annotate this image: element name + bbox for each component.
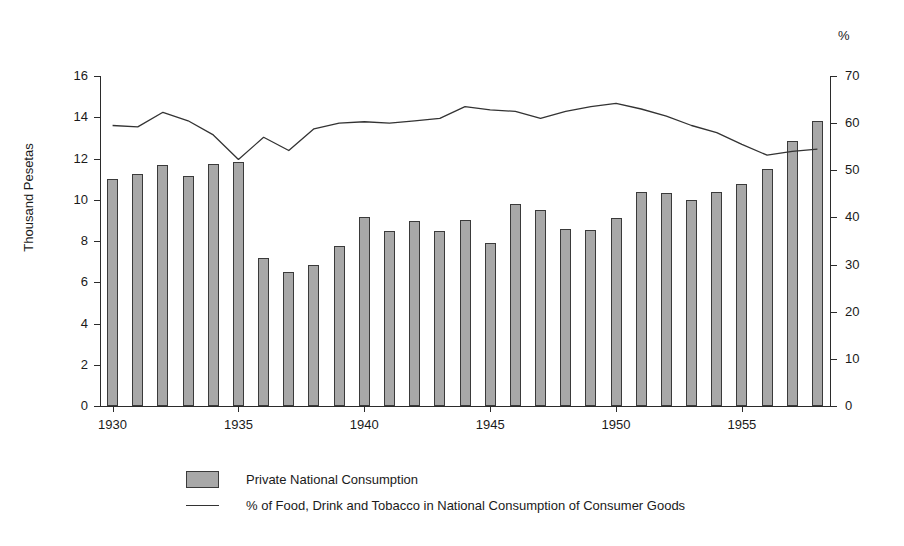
- legend-item-bars: Private National Consumption: [186, 466, 685, 492]
- plot-area: 0246810121416 010203040506070 1930193519…: [100, 76, 830, 406]
- left-axis-tick-label: 6: [28, 275, 88, 288]
- chart-figure: % Thousand Pesetas 0246810121416 0102030…: [0, 0, 904, 546]
- left-axis-tick-label: 2: [28, 358, 88, 371]
- legend: Private National Consumption % of Food, …: [186, 466, 685, 518]
- left-axis-tick-label: 4: [28, 317, 88, 330]
- x-axis-tick-label: 1930: [83, 417, 143, 432]
- right-axis-tick: [831, 265, 837, 266]
- left-axis-tick-label: 10: [28, 193, 88, 206]
- line-series-food-drink-tobacco-share: [100, 76, 830, 407]
- left-axis-tick-label: 14: [28, 110, 88, 123]
- legend-label-line: % of Food, Drink and Tobacco in National…: [246, 498, 685, 513]
- x-axis-tick: [113, 407, 114, 412]
- x-axis-tick-label: 1950: [586, 417, 646, 432]
- right-axis-tick-label: 60: [845, 116, 904, 129]
- left-axis-tick-label: 12: [28, 152, 88, 165]
- x-axis-tick: [742, 407, 743, 412]
- x-axis-tick: [238, 407, 239, 412]
- bar-swatch-icon: [186, 471, 219, 488]
- right-axis-tick-label: 20: [845, 305, 904, 318]
- legend-label-bars: Private National Consumption: [246, 472, 418, 487]
- legend-item-line: % of Food, Drink and Tobacco in National…: [186, 492, 685, 518]
- right-axis-tick-label: 40: [845, 210, 904, 223]
- x-axis-tick-label: 1940: [334, 417, 394, 432]
- x-axis-tick-label: 1955: [712, 417, 772, 432]
- right-axis-tick: [831, 123, 837, 124]
- x-axis-tick-label: 1935: [208, 417, 268, 432]
- x-axis-tick: [616, 407, 617, 412]
- line-swatch-icon: [186, 497, 219, 514]
- right-axis-tick-label: 0: [845, 399, 904, 412]
- left-axis-tick-label: 8: [28, 234, 88, 247]
- right-axis-unit-label: %: [838, 28, 850, 43]
- right-axis-tick-label: 50: [845, 163, 904, 176]
- x-axis-tick: [364, 407, 365, 412]
- right-axis-tick-label: 10: [845, 352, 904, 365]
- right-axis-tick: [831, 217, 837, 218]
- right-axis-tick-label: 70: [845, 69, 904, 82]
- right-axis-tick: [831, 406, 837, 407]
- right-axis-tick: [831, 170, 837, 171]
- right-axis-tick: [831, 359, 837, 360]
- x-axis-tick: [490, 407, 491, 412]
- right-axis-line: [830, 76, 831, 407]
- right-axis-tick: [831, 76, 837, 77]
- right-axis-tick-label: 30: [845, 258, 904, 271]
- left-axis-tick-label: 0: [28, 399, 88, 412]
- left-axis-tick-label: 16: [28, 69, 88, 82]
- right-axis-tick: [831, 312, 837, 313]
- x-axis-tick-label: 1945: [460, 417, 520, 432]
